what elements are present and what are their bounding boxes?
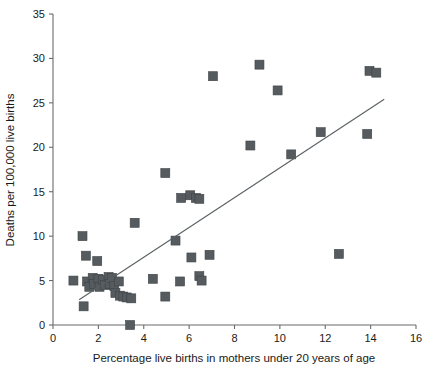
data-point-marker <box>208 72 217 81</box>
scatter-plot-figure: 05101520253035 0246810121416 Percentage … <box>0 0 433 376</box>
data-point-marker <box>187 253 196 262</box>
y-tick-label: 15 <box>33 186 45 198</box>
y-tick-label: 10 <box>33 230 45 242</box>
data-point-marker <box>177 193 186 202</box>
data-point-marker <box>195 194 204 203</box>
x-tick-label: 8 <box>231 332 237 344</box>
y-tick-label: 5 <box>39 275 45 287</box>
data-point-group <box>69 60 381 329</box>
x-tick-label: 10 <box>274 332 286 344</box>
x-tick-label: 4 <box>141 332 147 344</box>
data-point-marker <box>161 292 170 301</box>
data-point-marker <box>246 141 255 150</box>
data-point-marker <box>81 251 90 260</box>
data-point-marker <box>69 276 78 285</box>
x-axis-ticks: 0246810121416 <box>50 325 422 344</box>
x-tick-label: 6 <box>186 332 192 344</box>
x-tick-label: 12 <box>319 332 331 344</box>
y-axis-ticks: 05101520253035 <box>33 8 53 331</box>
data-point-marker <box>171 236 180 245</box>
y-tick-label: 20 <box>33 141 45 153</box>
data-point-marker <box>363 129 372 138</box>
data-point-marker <box>79 302 88 311</box>
data-point-marker <box>114 277 123 286</box>
y-tick-label: 0 <box>39 319 45 331</box>
data-point-marker <box>78 232 87 241</box>
data-point-marker <box>176 277 185 286</box>
data-point-marker <box>130 218 139 227</box>
x-tick-label: 14 <box>365 332 377 344</box>
data-point-marker <box>255 60 264 69</box>
data-point-marker <box>205 250 214 259</box>
data-point-marker <box>148 274 157 283</box>
data-point-marker <box>93 257 102 266</box>
data-point-marker <box>273 86 282 95</box>
y-axis: 05101520253035 <box>33 8 53 331</box>
x-tick-label: 2 <box>95 332 101 344</box>
y-tick-label: 30 <box>33 52 45 64</box>
x-axis-title: Percentage live births in mothers under … <box>93 352 376 364</box>
data-point-marker <box>287 150 296 159</box>
plot-canvas: 05101520253035 0246810121416 Percentage … <box>0 0 433 376</box>
regression-line <box>79 99 384 299</box>
x-tick-label: 0 <box>50 332 56 344</box>
x-axis: 0246810121416 <box>50 325 422 344</box>
data-point-marker <box>197 276 206 285</box>
data-point-marker <box>316 128 325 137</box>
y-tick-label: 35 <box>33 8 45 20</box>
data-point-marker <box>161 169 170 178</box>
y-axis-title: Deaths per 100,000 live births <box>4 93 16 246</box>
y-tick-label: 25 <box>33 97 45 109</box>
data-point-marker <box>127 294 136 303</box>
data-point-marker <box>372 68 381 77</box>
x-tick-label: 16 <box>410 332 422 344</box>
data-point-marker <box>334 249 343 258</box>
data-point-marker <box>126 321 135 330</box>
